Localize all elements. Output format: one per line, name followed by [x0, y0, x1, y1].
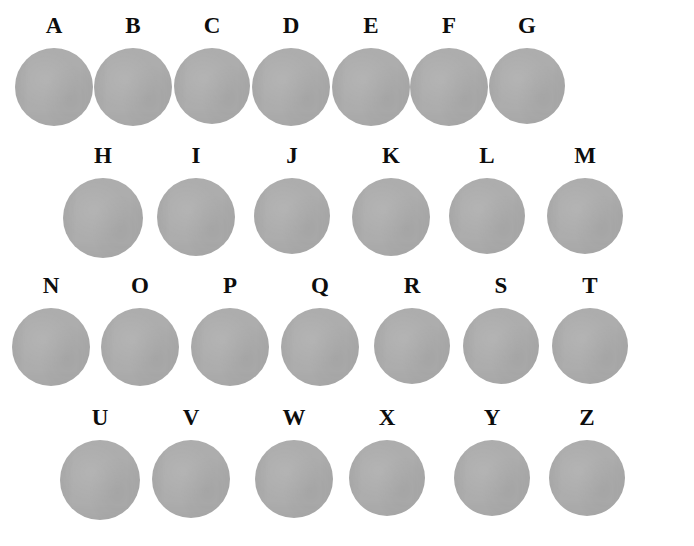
specimen-label-e: E	[363, 14, 378, 37]
specimen-label-w: W	[283, 406, 306, 429]
specimen-label-f: F	[442, 14, 456, 37]
specimen-disc-v	[152, 440, 230, 518]
specimen-disc-q	[281, 308, 359, 386]
specimen-label-s: S	[495, 274, 508, 297]
specimen-label-a: A	[46, 14, 63, 37]
specimen-disc-z	[549, 440, 625, 516]
specimen-label-k: K	[382, 144, 400, 167]
specimen-label-t: T	[582, 274, 597, 297]
specimen-label-c: C	[204, 14, 221, 37]
specimen-label-q: Q	[311, 274, 329, 297]
specimen-label-x: X	[379, 406, 396, 429]
specimen-disc-n	[12, 308, 90, 386]
specimen-disc-f	[410, 48, 488, 126]
specimen-disc-x	[349, 440, 425, 516]
specimen-disc-j	[254, 178, 330, 254]
specimen-disc-o	[101, 308, 179, 386]
specimen-label-n: N	[43, 274, 60, 297]
specimen-disc-w	[255, 440, 333, 518]
specimen-disc-m	[547, 178, 623, 254]
specimen-label-p: P	[223, 274, 237, 297]
specimen-disc-i	[157, 178, 235, 256]
specimen-label-y: Y	[484, 406, 501, 429]
specimen-disc-g	[489, 48, 565, 124]
specimen-disc-k	[352, 178, 430, 256]
specimen-label-m: M	[574, 144, 596, 167]
specimen-label-r: R	[404, 274, 421, 297]
specimen-label-i: I	[192, 144, 201, 167]
specimen-label-d: D	[283, 14, 300, 37]
specimen-label-u: U	[92, 406, 109, 429]
specimen-disc-h	[63, 178, 143, 258]
specimen-label-j: J	[286, 144, 298, 167]
specimen-disc-p	[191, 308, 269, 386]
specimen-label-v: V	[183, 406, 200, 429]
figure-panel: ABCDEFGHIJKLMNOPQRSTUVWXYZ	[0, 0, 694, 546]
specimen-label-g: G	[518, 14, 536, 37]
specimen-disc-l	[449, 178, 525, 254]
specimen-disc-r	[374, 308, 450, 384]
specimen-disc-a	[15, 48, 93, 126]
specimen-label-z: Z	[579, 406, 594, 429]
specimen-disc-e	[332, 48, 410, 126]
specimen-disc-s	[463, 308, 539, 384]
specimen-disc-u	[60, 440, 140, 520]
specimen-disc-t	[552, 308, 628, 384]
specimen-label-h: H	[94, 144, 112, 167]
specimen-label-b: B	[125, 14, 140, 37]
specimen-disc-c	[174, 48, 250, 124]
specimen-label-o: O	[131, 274, 149, 297]
specimen-disc-b	[94, 48, 172, 126]
specimen-disc-d	[252, 48, 330, 126]
specimen-disc-y	[454, 440, 530, 516]
specimen-label-l: L	[479, 144, 494, 167]
